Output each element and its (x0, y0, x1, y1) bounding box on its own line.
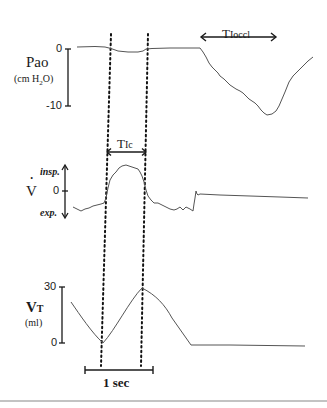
pao-label: Pao (26, 55, 49, 70)
dotted-line-insp-end (141, 34, 148, 366)
ti-occl-label: TIoccl (222, 27, 250, 40)
vt-label: VT (26, 300, 44, 315)
flow-label-dot: · (29, 171, 34, 187)
insp-label: insp. (40, 167, 60, 177)
pao-tick-zero: 0 (56, 43, 62, 54)
time-scale-bar (85, 366, 153, 374)
exp-label: exp. (40, 208, 57, 218)
flow-trace (73, 165, 308, 211)
vt-tick-zero: 0 (51, 337, 57, 348)
vt-unit: (ml) (25, 318, 42, 328)
ti-c-label: TIc (117, 137, 133, 150)
pao-tick-minus10: -10 (46, 100, 62, 111)
pao-axis (65, 49, 71, 106)
dotted-line-insp-start (101, 34, 111, 366)
pao-trace (77, 47, 313, 116)
pao-unit: (cm H2O) (14, 74, 53, 87)
vt-tick-30: 30 (44, 281, 56, 292)
time-scale-label: 1 sec (103, 376, 129, 389)
respiratory-traces-diagram (0, 0, 327, 408)
flow-axis (62, 165, 68, 218)
vt-axis (59, 287, 65, 343)
flow-tick-zero: 0 (53, 185, 59, 196)
vt-trace (71, 288, 305, 346)
